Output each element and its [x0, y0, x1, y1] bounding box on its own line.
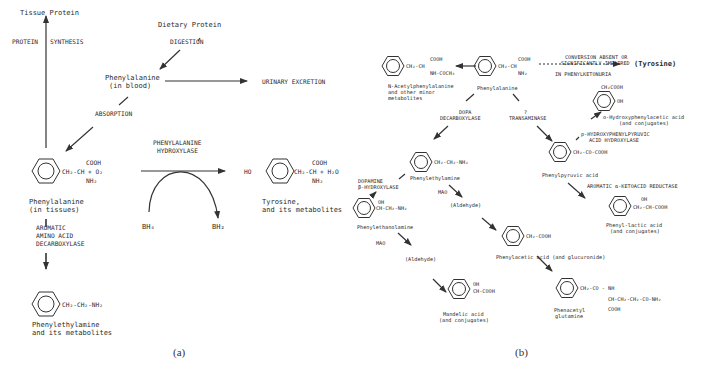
pla-oh: OH	[641, 196, 647, 202]
phe-nh2: NH₂	[86, 177, 97, 184]
tyrosine-formula: CH₂-CH + H₂O	[294, 168, 339, 175]
paa-label: Phenylacetic acid (and glucuronide)	[496, 254, 605, 260]
protein-synthesis-label-right: SYNTHESIS	[50, 38, 84, 45]
decarboxylase-line2: AMINO ACID	[36, 232, 73, 239]
pag-formula-2: CH-CH₂-CH₂-CO-NH₂	[608, 296, 661, 302]
panel-a-caption: (a)	[173, 346, 185, 358]
absorption-label: ABSORPTION	[95, 110, 132, 117]
paa-formula: CH₂-COOH	[526, 233, 551, 239]
bh2-label: BH₂	[212, 223, 225, 231]
pphh-label-2: ACID HYDROXYLASE	[589, 137, 639, 143]
enzyme-label-line2: HYDROXYLASE	[157, 147, 198, 154]
ppa-formula: CH₂-CO-COOH	[573, 149, 607, 155]
pag-label-2: glutamine	[555, 313, 583, 319]
pag-formula-1: CH₂-CO - NH	[580, 285, 614, 291]
phe-b-formula: CH₂-CH	[498, 63, 517, 69]
phe-formula: CH₂-CH + O₂	[62, 168, 103, 175]
dopa-decarboxylase-2: DECARBOXYLASE	[440, 115, 481, 121]
protein-synthesis-label-left: PROTEIN	[12, 38, 38, 45]
aldehyde-label-2: (Aldehyde)	[405, 256, 436, 262]
panel-b-caption: (b)	[515, 346, 528, 358]
nacetyl-label-3: metabolites	[388, 95, 422, 101]
conversion-note-2: SIGNIFICANTLY IMPAIRED	[561, 60, 630, 66]
in-blood-label: (in blood)	[109, 82, 151, 90]
ppa-label: Phenylpyruvic acid	[542, 172, 598, 178]
phe-b-label: Phenylalanine	[477, 85, 518, 91]
tyrosine-ho: HO	[244, 168, 251, 175]
ohpa-conjugates: (and conjugates)	[619, 120, 669, 126]
pea-formula: CH₂-CH₂-NH₂	[62, 301, 103, 308]
pethanol-mao-label: MAO	[376, 240, 385, 246]
pethanol-label: Phenylethanolamine	[357, 224, 413, 230]
pag-formula-3: COOH	[608, 306, 621, 312]
digestion-label: DIGESTION	[170, 38, 204, 45]
pea-b-formula: CH₂-CH₂-NH₂	[434, 159, 468, 165]
dbh-label-2: β-HYDROXYLASE	[358, 184, 399, 190]
in-tissues-label: (in tissues)	[29, 206, 80, 214]
pea-b-label: Phenylethylamine	[410, 175, 460, 181]
phe-tissue-label: Phenylalanine	[29, 198, 84, 206]
tyrosine-label: Tyrosine,	[262, 198, 300, 206]
nacetyl-cooh: COOH	[430, 56, 443, 62]
tyrosine-metabolites-label: and its metabolites	[262, 206, 342, 214]
bh4-label: BH₄	[142, 223, 155, 231]
phe-b-cooh: COOH	[518, 56, 531, 62]
phe-cooh: COOH	[86, 159, 101, 166]
nacetyl-formula: CH₂-CH	[406, 63, 425, 69]
tyrosine-cooh: COOH	[312, 159, 327, 166]
phenylalanine-blood-label: Phenylalanine	[105, 74, 160, 82]
aldehyde-label-1: (Aldehyde)	[450, 202, 481, 208]
pea-label: Phenylethylamine	[32, 321, 99, 329]
pla-conjugates: (and conjugates)	[610, 228, 660, 234]
tyrosine-nh2: NH₂	[312, 177, 323, 184]
enzyme-label-line1: PHENYLALANINE	[153, 139, 201, 146]
decarboxylase-line3: DECARBOXYLASE	[36, 240, 84, 247]
ohpa-oh: OH	[617, 98, 623, 104]
ohpa-ch2cooh: CH₂COOH	[601, 84, 623, 90]
pea-mao-label: MAO	[438, 189, 447, 195]
tissue-protein-label: Tissue Protein	[20, 9, 79, 17]
mandelic-formula: CH-COOH	[473, 288, 495, 294]
conversion-note-3: IN PHENYLKETONURIA	[555, 71, 611, 77]
tyrosine-b-label: (Tyrosine)	[634, 60, 676, 68]
pethanol-formula: CH-CH₂-NH₂	[376, 205, 407, 211]
reductase-label: AROMATIC α-KETOACID REDUCTASE	[587, 183, 678, 189]
decarboxylase-line1: AROMATIC	[36, 224, 66, 231]
mandelic-conjugates: (and conjugates)	[439, 317, 489, 323]
urinary-excretion-label: URINARY EXCRETION	[262, 78, 325, 85]
phe-b-nh2: NH₂	[518, 70, 527, 76]
mandelic-oh: OH	[473, 281, 479, 287]
pea-metabolites-label: and its metabolites	[32, 329, 112, 337]
transaminase-label: TRANSAMINASE	[509, 115, 546, 121]
pla-formula: CH₂-CH-COOH	[633, 204, 667, 210]
nacetyl-sub: NH-COCH₃	[430, 70, 455, 76]
dietary-protein-label: Dietary Protein	[158, 21, 221, 29]
